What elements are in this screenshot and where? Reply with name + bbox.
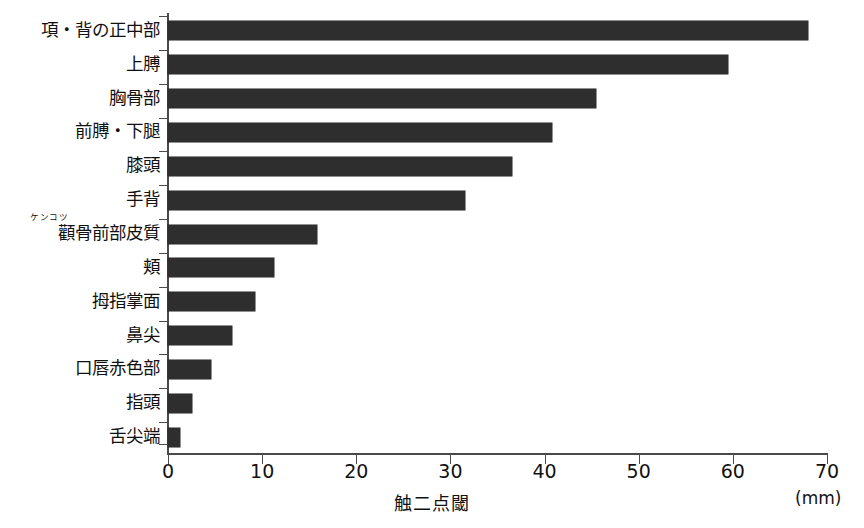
bar [168, 89, 596, 108]
y-axis-tick [159, 253, 168, 254]
x-axis-tick-label: 40 [532, 462, 556, 481]
x-axis-tick-label: 30 [438, 462, 462, 481]
y-axis-tick [159, 422, 168, 423]
x-axis-tick-label: 60 [721, 462, 745, 481]
category-label: 膝頭 [0, 157, 160, 175]
x-axis-tick-label: 20 [344, 462, 368, 481]
y-axis-tick [159, 219, 168, 220]
y-axis-tick [159, 16, 168, 17]
category-label: 手背 [0, 191, 160, 209]
category-label: 前膊・下腿 [0, 123, 160, 141]
x-axis-tick-label: 10 [250, 462, 274, 481]
x-axis-tick-label: 50 [627, 462, 651, 481]
bar [168, 157, 512, 176]
category-label: 指頭 [0, 394, 160, 412]
category-label-ruby: ケンコツ [30, 213, 68, 222]
category-label: 拇指掌面 [0, 293, 160, 311]
y-axis-tick [159, 50, 168, 51]
category-label: 口唇赤色部 [0, 360, 160, 378]
bar [168, 394, 192, 413]
bar [168, 21, 808, 40]
y-axis-tick [159, 287, 168, 288]
y-axis-tick [159, 354, 168, 355]
bar [168, 258, 274, 277]
x-axis-title: 触二点閾 [0, 495, 864, 513]
y-axis-tick [159, 185, 168, 186]
y-axis-tick [159, 321, 168, 322]
x-axis-tick-label: 70 [815, 462, 839, 481]
y-axis-tick [159, 84, 168, 85]
category-label: 舌尖端 [0, 428, 160, 446]
bar [168, 191, 465, 210]
two-point-discrimination-bar-chart: 項・背の正中部上膊胸骨部前膊・下腿膝頭手背顴骨前部皮質ケンコツ頬拇指掌面鼻尖口唇… [0, 0, 864, 528]
category-label: 上膊 [0, 56, 160, 74]
bar [168, 292, 255, 311]
x-axis-tick-label: 0 [162, 462, 174, 481]
bar [168, 55, 728, 74]
bar [168, 326, 232, 345]
bar [168, 428, 180, 447]
bar [168, 225, 317, 244]
category-label: 鼻尖 [0, 327, 160, 345]
plot-area [168, 14, 827, 454]
bar [168, 360, 211, 379]
y-axis-tick [159, 118, 168, 119]
category-label: 胸骨部 [0, 90, 160, 108]
bar [168, 123, 552, 142]
y-axis-tick [159, 388, 168, 389]
category-label: 項・背の正中部 [0, 22, 160, 40]
y-axis-tick [159, 444, 168, 445]
y-axis-tick [159, 151, 168, 152]
category-label: 頬 [0, 259, 160, 277]
category-label: 顴骨前部皮質 [0, 225, 160, 243]
